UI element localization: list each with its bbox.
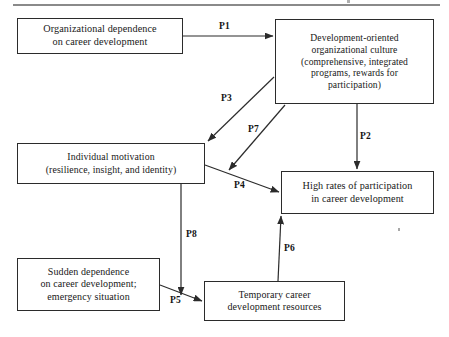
edge-label-P7: P7 bbox=[248, 124, 259, 134]
node-label: Sudden dependence on career development;… bbox=[18, 266, 159, 303]
node-label: Organizational dependence on career deve… bbox=[18, 23, 182, 48]
scan-artifact-top bbox=[347, 0, 350, 3]
node-label: Temporary career development resources bbox=[205, 289, 344, 314]
node-organizational-dependence[interactable]: Organizational dependence on career deve… bbox=[17, 18, 183, 54]
node-development-oriented-culture[interactable]: Development-oriented organizational cult… bbox=[275, 19, 434, 104]
edge-label-P8: P8 bbox=[186, 229, 197, 239]
node-high-rates-participation[interactable]: High rates of participation in career de… bbox=[281, 171, 434, 214]
node-label: Development-oriented organizational cult… bbox=[276, 32, 433, 91]
edge-P3 bbox=[208, 77, 274, 141]
node-label: High rates of participation in career de… bbox=[282, 180, 433, 205]
header-rule bbox=[13, 4, 440, 6]
node-temporary-career-resources[interactable]: Temporary career development resources bbox=[204, 281, 345, 321]
edge-P6 bbox=[278, 216, 281, 281]
edge-label-P2: P2 bbox=[360, 131, 371, 141]
edge-label-P1: P1 bbox=[219, 21, 230, 31]
node-label: Individual motivation (resilience, insig… bbox=[18, 151, 204, 175]
edge-P7 bbox=[229, 105, 285, 170]
edge-label-P6: P6 bbox=[284, 243, 295, 253]
scan-artifact-right bbox=[398, 228, 400, 231]
node-individual-motivation[interactable]: Individual motivation (resilience, insig… bbox=[17, 143, 205, 184]
node-sudden-dependence[interactable]: Sudden dependence on career development;… bbox=[17, 258, 160, 311]
edge-label-P4: P4 bbox=[234, 180, 245, 190]
edge-label-P3: P3 bbox=[221, 93, 232, 103]
diagram-canvas: Organizational dependence on career deve… bbox=[0, 0, 449, 337]
edge-label-P5: P5 bbox=[170, 295, 181, 305]
